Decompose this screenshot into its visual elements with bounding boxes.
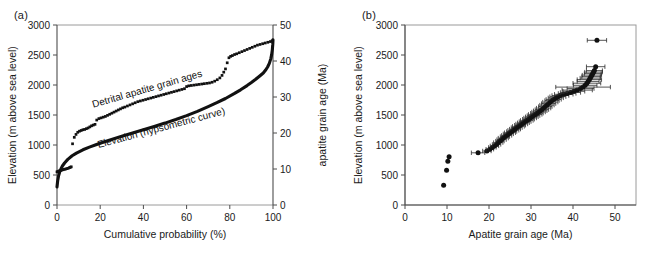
data-point (248, 47, 251, 50)
data-point (152, 96, 155, 99)
x-tick-label: 40 (567, 212, 579, 223)
data-point (123, 106, 126, 109)
data-point (241, 50, 244, 53)
data-point (264, 42, 267, 45)
data-point (170, 91, 173, 94)
data-point (224, 68, 227, 71)
y-tick-label: 0 (392, 200, 398, 211)
data-point (251, 46, 254, 49)
data-point (243, 49, 246, 52)
data-point (216, 78, 219, 81)
data-point (206, 82, 209, 85)
y-tick-label: 1000 (376, 140, 399, 151)
data-point (178, 89, 181, 92)
y-tick-label-left: 2000 (28, 80, 51, 91)
data-point (235, 52, 238, 55)
data-point (168, 92, 171, 95)
annotation-detrital-ages: Detrital apatite grain ages (91, 68, 204, 110)
data-point (94, 123, 97, 126)
y-tick-label-right: 30 (280, 92, 292, 103)
data-point (134, 101, 137, 104)
y-axis-title-right: apatite grain age (Ma) (316, 64, 328, 167)
data-point (149, 97, 152, 100)
data-point (147, 97, 150, 100)
x-tick-label: 30 (525, 212, 537, 223)
plot-frame (405, 25, 636, 205)
y-tick-label-left: 2500 (28, 50, 51, 61)
data-point (203, 82, 206, 85)
y-tick-label-left: 3000 (28, 20, 51, 31)
y-tick-label-right: 20 (280, 128, 292, 139)
data-point (259, 43, 262, 46)
data-point (187, 84, 190, 87)
y-axis-title: Elevation (m above sea level) (352, 46, 364, 184)
x-axis-title: Cumulative probability (%) (104, 228, 227, 240)
data-point (70, 165, 73, 168)
data-point (195, 83, 198, 86)
panel-b: (b) 05001000150020002500300001020304050A… (340, 0, 657, 261)
panel-a: (a) 050010001500200025003000010203040500… (0, 0, 340, 261)
hypsometric-curve (57, 40, 273, 187)
y-tick-label-right: 40 (280, 56, 292, 67)
data-point (444, 168, 449, 173)
data-point (126, 105, 129, 108)
data-point (447, 154, 452, 159)
x-tick-label: 10 (441, 212, 453, 223)
data-point (131, 102, 134, 105)
data-point (193, 84, 196, 87)
data-point (175, 90, 178, 93)
data-point (221, 74, 224, 77)
y-axis-title-left: Elevation (m above sea level) (6, 46, 18, 184)
data-point (142, 99, 145, 102)
x-tick-label: 20 (483, 212, 495, 223)
detrital-age-points (56, 39, 274, 173)
data-point (173, 90, 176, 93)
data-point (594, 38, 599, 43)
x-tick-label: 60 (181, 212, 193, 223)
data-point (441, 183, 446, 188)
x-tick-label: 100 (265, 212, 282, 223)
data-point (254, 45, 257, 48)
data-point (198, 83, 201, 86)
y-tick-label: 3000 (376, 20, 399, 31)
x-tick-label: 20 (95, 212, 107, 223)
data-point (181, 88, 184, 91)
data-point (155, 95, 158, 98)
y-tick-label-left: 0 (44, 200, 50, 211)
y-tick-label-right: 50 (280, 20, 292, 31)
data-point (219, 77, 222, 80)
panel-b-plot: 05001000150020002500300001020304050Apati… (340, 0, 657, 261)
data-point (246, 48, 249, 51)
y-tick-label-left: 500 (33, 170, 50, 181)
x-tick-label: 0 (54, 212, 60, 223)
panel-a-plot: 0500100015002000250030000102030405002040… (0, 0, 340, 261)
data-point (208, 82, 211, 85)
y-tick-label: 2000 (376, 80, 399, 91)
data-point (71, 142, 74, 145)
data-point (261, 42, 264, 45)
data-point (162, 93, 165, 96)
data-point (271, 39, 274, 42)
data-point (222, 71, 225, 74)
data-point (266, 41, 269, 44)
data-point (157, 95, 160, 98)
data-point (73, 136, 76, 139)
x-axis-title: Apatite grain age (Ma) (469, 228, 573, 240)
data-point (238, 51, 241, 54)
data-point (165, 92, 168, 95)
data-point (476, 150, 481, 155)
data-point (256, 44, 259, 47)
data-point (129, 104, 132, 107)
x-tick-label: 0 (402, 212, 408, 223)
data-point (211, 81, 214, 84)
x-tick-label: 80 (224, 212, 236, 223)
data-point (160, 94, 163, 97)
y-tick-label-right: 0 (280, 200, 286, 211)
scatter-points (441, 38, 610, 188)
data-point (200, 83, 203, 86)
y-tick-label: 1500 (376, 110, 399, 121)
y-tick-label: 2500 (376, 50, 399, 61)
data-point (226, 61, 229, 64)
data-point (139, 100, 142, 103)
panel-b-label: (b) (362, 9, 376, 21)
